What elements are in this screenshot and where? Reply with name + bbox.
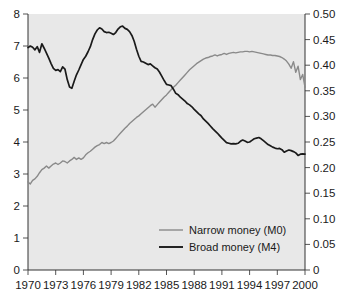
right-axis-tick-label: 0.05 — [313, 238, 335, 250]
x-axis-tick-label: 1985 — [154, 279, 180, 291]
right-axis-tick-label: 0.20 — [313, 162, 335, 174]
x-axis-tick-label: 1973 — [43, 279, 69, 291]
left-axis-tick-label: 3 — [14, 168, 20, 180]
x-axis-tick-label: 2000 — [292, 279, 318, 291]
x-axis-tick-label: 1970 — [15, 279, 41, 291]
left-axis-tick-label: 2 — [14, 200, 20, 212]
right-axis-ticks: 00.050.100.150.200.250.300.350.400.450.5… — [305, 8, 335, 276]
chart-container: 012345678 00.050.100.150.200.250.300.350… — [0, 0, 348, 305]
x-axis-tick-label: 1997 — [265, 279, 291, 291]
right-axis-tick-label: 0 — [313, 264, 319, 276]
right-axis-tick-label: 0.40 — [313, 59, 335, 71]
x-axis-tick-label: 1988 — [181, 279, 207, 291]
right-axis-tick-label: 0.30 — [313, 110, 335, 122]
x-axis-ticks: 1970197319761979198219851988199119941997… — [15, 270, 318, 291]
legend-label: Broad money (M4) — [189, 241, 280, 253]
right-axis-tick-label: 0.50 — [313, 8, 335, 20]
x-axis-tick-label: 1982 — [126, 279, 152, 291]
right-axis-tick-label: 0.15 — [313, 187, 335, 199]
right-axis-tick-label: 0.25 — [313, 136, 335, 148]
x-axis-tick-label: 1979 — [98, 279, 124, 291]
left-axis-tick-label: 1 — [14, 232, 20, 244]
left-axis-tick-label: 0 — [14, 264, 20, 276]
right-axis-tick-label: 0.10 — [313, 213, 335, 225]
left-axis-tick-label: 7 — [14, 40, 20, 52]
x-axis-tick-label: 1994 — [237, 279, 263, 291]
chart-svg: 012345678 00.050.100.150.200.250.300.350… — [0, 0, 348, 305]
legend-label: Narrow money (M0) — [189, 224, 286, 236]
right-axis-tick-label: 0.35 — [313, 85, 335, 97]
left-axis-tick-label: 4 — [14, 136, 21, 148]
x-axis-tick-label: 1991 — [209, 279, 235, 291]
x-axis-tick-label: 1976 — [71, 279, 97, 291]
left-axis-tick-label: 8 — [14, 8, 20, 20]
left-axis-ticks: 012345678 — [14, 8, 28, 276]
left-axis-tick-label: 6 — [14, 72, 20, 84]
left-axis-tick-label: 5 — [14, 104, 20, 116]
right-axis-tick-label: 0.45 — [313, 34, 335, 46]
